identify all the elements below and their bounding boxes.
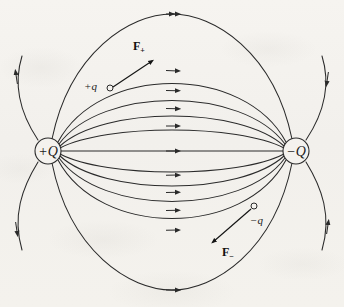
field-line-arc-up-1 [58,84,286,143]
test-charge-positive-marker [107,85,113,91]
test-charge-positive-group: +q F+ [84,39,152,92]
force-positive-subscript: + [140,46,145,55]
field-line-left-upper-lobe [18,56,38,140]
charge-positive-group: +Q [35,138,61,164]
force-negative-symbol: F [222,245,229,259]
field-line-right-upper-lobe [306,56,326,140]
force-vector-positive-arrow [113,61,152,87]
arrowhead-right-lower-lobe [327,222,329,234]
arrowhead-left-lower-lobe [16,222,18,234]
field-line-arc-up-4 [60,130,284,148]
field-line-right-lower-lobe [306,162,326,250]
test-charge-positive-label: +q [84,80,97,92]
field-line-left-lower-lobe [18,162,38,250]
force-positive-label: F+ [133,39,145,55]
arrowhead-right-upper-lobe [327,72,329,84]
field-line-arc-up-3 [60,116,284,146]
field-line-arc-down-2 [60,156,284,186]
field-line-canvas: +Q −Q +q F+ −q F− [0,0,344,307]
charge-negative-label: −Q [286,144,306,159]
force-negative-label: F− [222,245,234,261]
test-charge-negative-marker [251,203,257,209]
charge-negative-group: −Q [283,138,309,164]
force-negative-subscript: − [229,252,234,261]
charge-positive-label: +Q [38,144,58,159]
field-line-arc-down-1 [60,154,284,172]
force-vector-negative-arrow [213,209,251,242]
field-line-outer-top [52,14,292,139]
arrowhead-left-upper-lobe [16,72,18,84]
test-charge-negative-label: −q [250,214,263,226]
dipole-field-figure: +Q −Q +q F+ −q F− [0,0,344,307]
test-charge-negative-group: −q F− [213,203,263,261]
field-line-arc-down-4 [58,160,286,219]
force-positive-symbol: F [133,39,140,53]
